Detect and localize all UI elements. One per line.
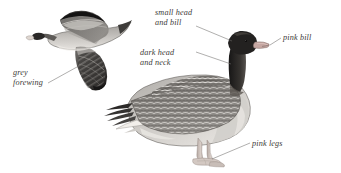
leader-pink-legs: [212, 143, 250, 159]
label-dark-head-and-neck: dark head and neck: [140, 48, 174, 67]
label-pink-bill: pink bill: [283, 33, 311, 43]
illustration-plate: small head and bill dark head and neck p…: [0, 0, 341, 173]
leader-dark-head: [196, 52, 231, 64]
label-grey-forewing: grey forewing: [13, 68, 43, 87]
leader-small-head: [196, 26, 232, 41]
standing-goose: [104, 31, 269, 167]
leader-pink-bill: [270, 38, 281, 45]
label-pink-legs: pink legs: [252, 139, 283, 149]
label-small-head-and-bill: small head and bill: [155, 8, 192, 27]
